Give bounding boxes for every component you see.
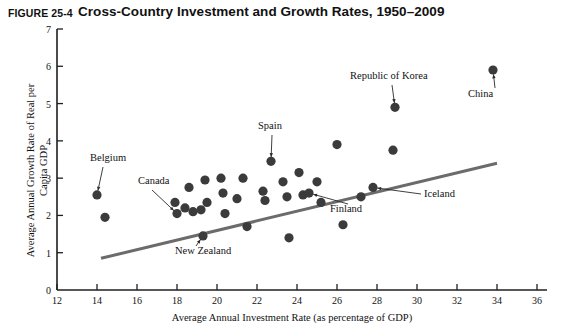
data-point	[338, 220, 347, 229]
plot-canvas	[0, 0, 584, 331]
y-tick-label: 7	[37, 24, 51, 35]
leader-arrowhead	[97, 187, 100, 191]
data-point	[278, 177, 287, 186]
x-tick-label: 26	[332, 295, 342, 306]
data-point-spain	[266, 157, 275, 166]
data-point	[332, 140, 341, 149]
x-tick-label: 16	[132, 295, 142, 306]
annotation-china: China	[468, 88, 493, 99]
x-tick-label: 24	[292, 295, 302, 306]
x-tick-label: 14	[92, 295, 102, 306]
data-point	[220, 209, 229, 218]
data-point	[202, 198, 211, 207]
data-points	[92, 65, 497, 242]
data-point	[312, 177, 321, 186]
data-point	[216, 174, 225, 183]
y-axis-title: Average Annual Growth Rate of Real per C…	[25, 71, 50, 271]
data-point	[238, 174, 247, 183]
leader-line	[152, 190, 174, 211]
data-point-new-zealand	[198, 231, 207, 240]
annotation-republic-of-korea: Republic of Korea	[350, 70, 428, 81]
data-point-finland	[304, 188, 313, 197]
x-axis-title: Average Annual Investment Rate (as perce…	[0, 312, 584, 323]
data-point-china	[488, 65, 497, 74]
annotation-finland: Finland	[330, 203, 362, 214]
annotation-canada: Canada	[138, 175, 170, 186]
data-point	[284, 233, 293, 242]
data-point-republic-of-korea	[390, 103, 399, 112]
data-point	[258, 187, 267, 196]
data-point	[170, 198, 179, 207]
scatter-plot: 1214161820222426283032343601234567 Belgi…	[0, 0, 584, 331]
data-point	[100, 213, 109, 222]
x-tick-label: 12	[52, 295, 62, 306]
annotation-new-zealand: New Zealand	[175, 245, 231, 256]
data-point	[242, 222, 251, 231]
data-point-belgium	[92, 190, 101, 199]
x-tick-label: 36	[532, 295, 542, 306]
data-point	[260, 196, 269, 205]
data-point	[188, 207, 197, 216]
data-point	[218, 188, 227, 197]
data-point	[184, 183, 193, 192]
data-point	[356, 192, 365, 201]
annotation-leader-lines	[97, 74, 496, 246]
data-point	[282, 192, 291, 201]
x-tick-label: 32	[452, 295, 462, 306]
leader-arrowhead	[270, 153, 273, 157]
data-point	[388, 146, 397, 155]
data-point	[294, 168, 303, 177]
data-point	[196, 205, 205, 214]
annotation-iceland: Iceland	[424, 188, 455, 199]
data-point	[232, 194, 241, 203]
data-point	[180, 203, 189, 212]
y-tick-label: 0	[37, 285, 51, 296]
data-point	[200, 175, 209, 184]
figure-root: FIGURE 25-4 Cross-Country Investment and…	[0, 0, 584, 331]
annotation-belgium: Belgium	[90, 152, 126, 163]
leader-arrowhead	[197, 240, 201, 244]
x-tick-label: 18	[172, 295, 182, 306]
x-tick-label: 28	[372, 295, 382, 306]
data-point	[316, 198, 325, 207]
data-point-iceland	[368, 183, 377, 192]
x-tick-label: 20	[212, 295, 222, 306]
x-tick-label: 34	[492, 295, 502, 306]
x-tick-label: 22	[252, 295, 262, 306]
annotation-spain: Spain	[258, 120, 282, 131]
x-tick-label: 30	[412, 295, 422, 306]
